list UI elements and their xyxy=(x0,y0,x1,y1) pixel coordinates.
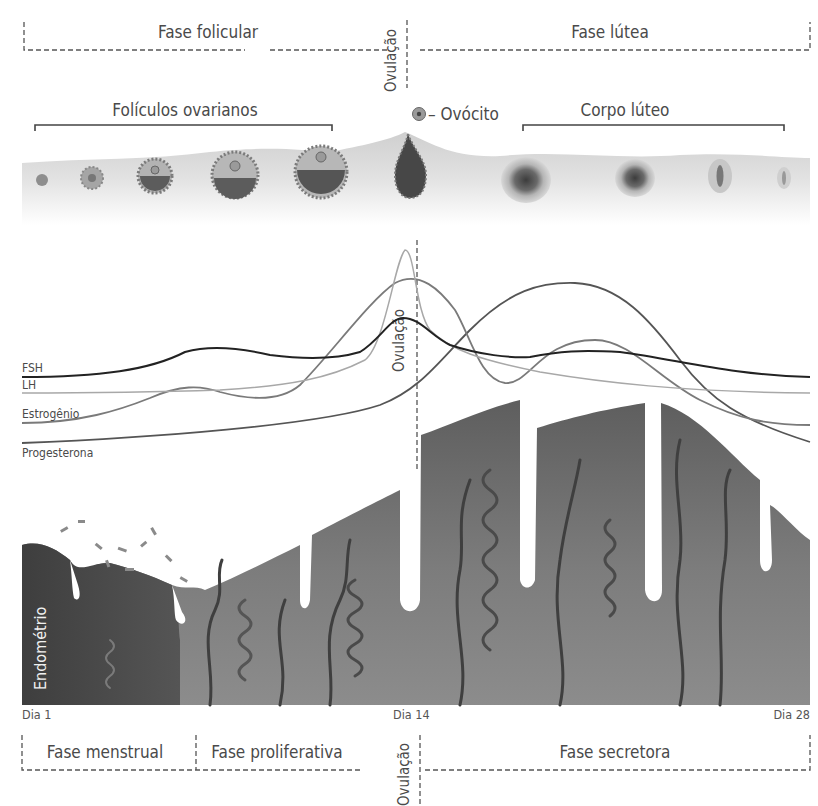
estrogen-label: Estrogênio xyxy=(22,407,80,421)
day-28-label: Dia 28 xyxy=(773,707,810,722)
lh-label: LH xyxy=(22,378,36,392)
fsh-curve xyxy=(22,318,810,377)
follicle-primordial xyxy=(36,174,48,186)
top-phase-brackets xyxy=(24,20,810,88)
ovulation-top-label: Ovulação xyxy=(382,29,400,92)
phase-menstrual-label: Fase menstrual xyxy=(47,742,163,762)
oocyte-label: – Ovócito xyxy=(428,104,499,124)
endometrium-label: Endométrio xyxy=(31,606,50,690)
corpus-luteum-mid xyxy=(615,159,655,197)
follicles-label: Folículos ovarianos xyxy=(112,100,257,120)
corpus-luteum-bracket xyxy=(523,125,784,131)
phase-proliferative-label: Fase proliferativa xyxy=(211,742,342,762)
phase-secretory-label: Fase secretora xyxy=(560,742,671,762)
oocyte-icon xyxy=(413,108,426,121)
phase-luteal-label: Fase lútea xyxy=(571,22,649,42)
corpus-albicans xyxy=(777,167,791,189)
follicle-preovulatory xyxy=(295,146,347,198)
corpus-luteum-early xyxy=(501,157,551,203)
fsh-label: FSH xyxy=(22,361,43,375)
phase-follicular-label: Fase folicular xyxy=(158,22,259,42)
follicle-secondary xyxy=(138,159,172,193)
follicle-primary xyxy=(81,167,103,189)
menstrual-cycle-diagram: Fase folicular Fase lútea Ovulação Folíc… xyxy=(0,0,818,806)
corpus-luteum-late xyxy=(708,159,732,193)
endometrium: Endométrio xyxy=(22,400,810,705)
estrogen-curve xyxy=(22,279,810,425)
corpus-luteum-label: Corpo lúteo xyxy=(581,100,670,120)
progesterone-label: Progesterona xyxy=(22,446,93,460)
ovulation-bottom-label: Ovulação xyxy=(395,743,413,806)
follicles-bracket xyxy=(35,125,332,131)
day-1-label: Dia 1 xyxy=(22,707,51,722)
day-14-label: Dia 14 xyxy=(393,707,430,722)
